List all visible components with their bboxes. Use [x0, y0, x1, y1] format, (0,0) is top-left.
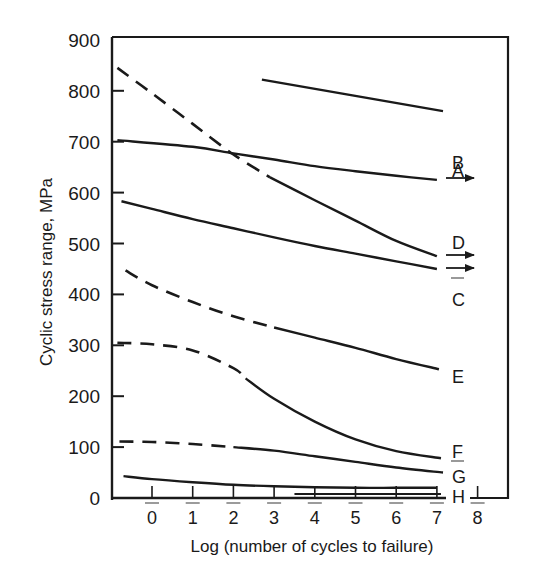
curve-label-G: G: [452, 467, 466, 487]
curve-E-extrapolated: [126, 270, 275, 327]
x-tick-label: 4: [310, 508, 320, 528]
curve-H-line: [124, 476, 437, 488]
y-tick-label: 200: [68, 386, 100, 407]
x-tick-label: 3: [269, 508, 279, 528]
x-axis-ticks: 012345678: [145, 486, 485, 528]
curve-G: [119, 442, 443, 473]
curve-label-E: E: [452, 367, 464, 387]
curve-G-measured: [233, 447, 443, 472]
curve-F: [117, 343, 441, 459]
curve-C-line: [121, 201, 436, 269]
curve-C: [121, 201, 474, 269]
curve-E-measured: [274, 327, 439, 369]
curve-E: [126, 270, 439, 369]
curve-A: [262, 80, 443, 112]
curve-B: [117, 140, 474, 180]
x-tick-label: 8: [473, 508, 483, 528]
curve-G-extrapolated: [119, 442, 233, 448]
x-tick-label: 7: [432, 508, 442, 528]
curves: [117, 68, 474, 494]
y-tick-label: 900: [68, 30, 100, 51]
curve-H: [124, 476, 437, 488]
x-tick-label: 2: [228, 508, 238, 528]
x-tick-label: 6: [391, 508, 401, 528]
curve-B-line: [117, 140, 436, 180]
y-tick-label: 800: [68, 81, 100, 102]
x-tick-label: 1: [188, 508, 198, 528]
y-tick-label: 0: [89, 488, 100, 509]
y-tick-label: 400: [68, 284, 100, 305]
curve-labels: ABDCEFGH: [451, 153, 466, 507]
x-tick-label: 0: [147, 508, 157, 528]
curve-label-F: F: [452, 442, 463, 462]
curve-label-B: B: [452, 153, 464, 173]
curve-D-measured: [270, 177, 437, 256]
y-tick-label: 700: [68, 132, 100, 153]
y-tick-label: 600: [68, 183, 100, 204]
curve-F-extrapolated: [117, 343, 245, 379]
y-tick-label: 300: [68, 335, 100, 356]
curve-label-D: D: [452, 233, 465, 253]
curve-D-extrapolated: [117, 68, 270, 177]
y-axis-title: Cyclic stress range, MPa: [37, 177, 56, 366]
curve-label-H: H: [452, 487, 465, 507]
sn-curve-chart: 0100200300400500600700800900 012345678 A…: [0, 0, 538, 581]
x-axis-title: Log (number of cycles to failure): [191, 537, 434, 556]
x-tick-label: 5: [350, 508, 360, 528]
y-tick-label: 500: [68, 234, 100, 255]
curve-F-measured: [246, 378, 441, 458]
curve-A-line: [262, 80, 443, 112]
y-tick-label: 100: [68, 437, 100, 458]
curve-label-C: C: [452, 290, 465, 310]
y-axis-ticks: 0100200300400500600700800900: [68, 30, 124, 509]
